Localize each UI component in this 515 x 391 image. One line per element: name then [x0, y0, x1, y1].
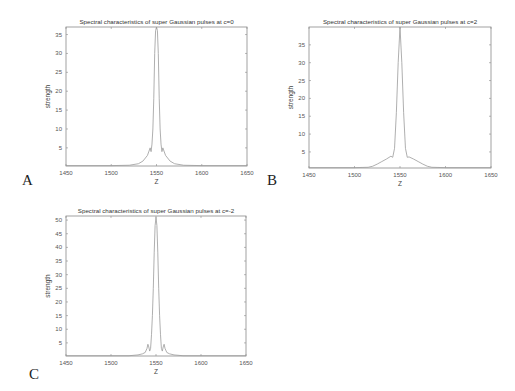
x-tick-label: 1500	[348, 172, 362, 178]
x-tick-label: 1550	[393, 172, 407, 178]
y-tick-label: 20	[298, 95, 305, 101]
x-tick-label: 1600	[194, 360, 208, 366]
y-tick-label: 40	[55, 244, 62, 250]
y-tick-label: 50	[55, 217, 62, 223]
y-tick-label: 25	[55, 285, 62, 291]
y-tick-label: 25	[298, 78, 305, 84]
y-tick-label: 15	[298, 113, 305, 119]
y-tick-label: 35	[55, 258, 62, 264]
axes-box	[309, 27, 491, 168]
chart-c: 145015001550160016505101520253035404550S…	[0, 0, 260, 391]
y-tick-label: 30	[298, 60, 305, 66]
y-tick-label: 45	[55, 231, 62, 237]
y-tick-label: 30	[55, 272, 62, 278]
y-tick-label: 10	[55, 326, 62, 332]
x-axis-label: Z	[398, 180, 402, 187]
y-tick-label: 15	[55, 313, 62, 319]
y-tick-label: 35	[298, 42, 305, 48]
y-axis-label: strength	[44, 274, 52, 298]
panel-label-c: C	[29, 366, 39, 383]
x-tick-label: 1550	[149, 360, 163, 366]
x-tick-label: 1600	[439, 172, 453, 178]
x-tick-label: 1450	[302, 172, 316, 178]
panel-label-b: B	[267, 172, 277, 189]
y-tick-label: 10	[298, 131, 305, 137]
spectrum-line	[66, 217, 246, 355]
axes-box	[66, 216, 246, 356]
x-tick-label: 1650	[484, 172, 498, 178]
x-tick-label: 1650	[239, 360, 253, 366]
chart-title: Spectral characteristics of super Gaussi…	[323, 18, 478, 25]
x-tick-label: 1450	[59, 360, 73, 366]
spectrum-line	[309, 27, 491, 168]
y-tick-label: 5	[59, 340, 63, 346]
chart-title: Spectral characteristics of super Gaussi…	[78, 207, 235, 214]
y-tick-label: 20	[55, 299, 62, 305]
y-tick-label: 5	[302, 149, 306, 155]
panel-c: 145015001550160016505101520253035404550S…	[0, 0, 260, 391]
y-axis-label: strength	[287, 85, 295, 109]
x-tick-label: 1500	[104, 360, 118, 366]
x-axis-label: Z	[154, 368, 158, 375]
